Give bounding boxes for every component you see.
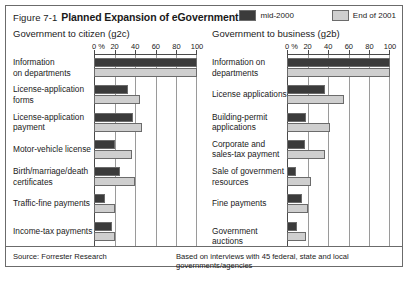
bar-mid-2000 (287, 85, 325, 94)
legend-item-mid-2000: mid-2000 (239, 10, 293, 21)
x-tick-label-100: 100 (384, 42, 397, 51)
x-axis-g2c: 0 %20406080100 (94, 42, 197, 55)
plot-area-g2b: 0 %20406080100 (287, 42, 390, 246)
bar-end-of-2001 (287, 123, 330, 132)
figure-title: Planned Expansion of eGovernment (61, 11, 238, 23)
category-label: Traffic-fine payments (13, 198, 95, 209)
bar-row (94, 137, 197, 164)
bar-row (287, 82, 390, 109)
legend-label-mid-2000: mid-2000 (260, 11, 293, 20)
bar-end-of-2001 (287, 204, 308, 213)
legend-swatch-mid-2000-icon (239, 10, 256, 21)
bar-end-of-2001 (287, 95, 344, 104)
bar-row (287, 55, 390, 82)
plot-area-g2c: 0 %20406080100 (94, 42, 197, 246)
source-text: Source: Forrester Research (13, 252, 107, 261)
legend-swatch-end-of-2001-icon (332, 10, 349, 21)
bar-end-of-2001 (94, 232, 115, 241)
bar-row (94, 110, 197, 137)
bar-end-of-2001 (94, 177, 135, 186)
bar-row (287, 110, 390, 137)
bar-mid-2000 (287, 194, 302, 203)
bar-mid-2000 (94, 194, 105, 203)
chart-panel-g2c: Government to citizen (g2c) Information … (6, 28, 205, 246)
bar-row (94, 219, 197, 246)
bar-mid-2000 (287, 140, 305, 149)
category-label: License-application forms (13, 84, 95, 105)
bar-end-of-2001 (94, 95, 140, 104)
bar-mid-2000 (287, 167, 296, 176)
x-axis-g2b: 0 %20406080100 (287, 42, 390, 55)
figure-header: Figure 7-1 Planned Expansion of eGovernm… (6, 6, 402, 28)
category-label: License-application payment (13, 112, 95, 133)
category-labels-g2b: Information on departmentsLicense applic… (212, 55, 288, 246)
bar-end-of-2001 (94, 204, 115, 213)
bars-g2c (94, 55, 197, 246)
category-label: Government auctions (212, 226, 288, 247)
bars-g2b (287, 55, 390, 246)
methodology-note: Based on interviews with 45 federal, sta… (176, 252, 402, 270)
figure-footer: Source: Forrester Research Based on inte… (6, 246, 402, 266)
legend-label-end-of-2001: End of 2001 (353, 11, 396, 20)
bar-mid-2000 (94, 222, 112, 231)
category-label: Information on departments (13, 57, 95, 78)
legend: mid-2000 End of 2001 (239, 10, 396, 21)
bar-mid-2000 (287, 58, 390, 67)
category-label: Income-tax payments (13, 226, 95, 237)
bar-end-of-2001 (94, 150, 132, 159)
category-label: Motor-vehicle license (13, 144, 95, 155)
bar-mid-2000 (287, 113, 306, 122)
category-label: Fine payments (212, 198, 288, 209)
category-label: License applications (212, 89, 288, 100)
bar-end-of-2001 (287, 177, 311, 186)
bar-row (287, 164, 390, 191)
bar-mid-2000 (94, 113, 133, 122)
category-label: Sale of government resources (212, 166, 288, 187)
chart-title-g2c: Government to citizen (g2c) (13, 28, 130, 39)
bar-row (94, 191, 197, 218)
figure-container: Figure 7-1 Planned Expansion of eGovernm… (5, 5, 403, 267)
bar-mid-2000 (94, 85, 128, 94)
bar-end-of-2001 (287, 232, 306, 241)
bar-row (287, 137, 390, 164)
bar-end-of-2001 (94, 123, 142, 132)
bar-end-of-2001 (287, 150, 325, 159)
bar-mid-2000 (94, 140, 115, 149)
bar-end-of-2001 (287, 68, 390, 77)
category-label: Information on departments (212, 57, 288, 78)
bar-mid-2000 (94, 167, 120, 176)
x-tick-label-100: 100 (191, 42, 204, 51)
category-label: Building-permit applications (212, 112, 288, 133)
bar-mid-2000 (94, 58, 197, 67)
category-labels-g2c: Information on departmentsLicense-applic… (13, 55, 95, 246)
bar-row (287, 219, 390, 246)
chart-panel-g2b: Government to business (g2b) Information… (205, 28, 404, 246)
bar-row (94, 55, 197, 82)
bar-end-of-2001 (94, 68, 197, 77)
figure-number: Figure 7-1 (13, 12, 57, 23)
bar-row (94, 82, 197, 109)
category-label: Birth/marriage/death certificates (13, 166, 95, 187)
chart-title-g2b: Government to business (g2b) (212, 28, 340, 39)
bar-mid-2000 (287, 222, 297, 231)
category-label: Corporate and sales-tax payment (212, 139, 288, 160)
bar-row (287, 191, 390, 218)
charts-area: Government to citizen (g2c) Information … (6, 28, 402, 246)
legend-item-end-of-2001: End of 2001 (332, 10, 396, 21)
bar-row (94, 164, 197, 191)
